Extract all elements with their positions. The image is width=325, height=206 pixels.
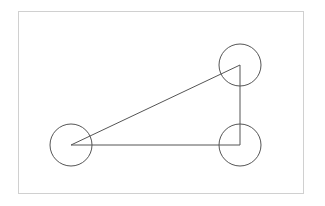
edge-line [71,65,240,145]
diagram-canvas [0,0,325,206]
triangle-edges [71,65,240,145]
